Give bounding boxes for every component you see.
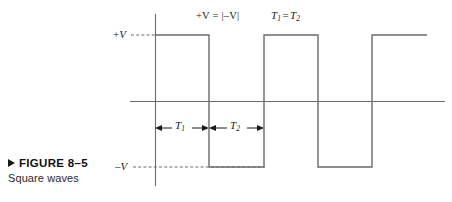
figure-square-waves: +V = |–V| T1=T2 +V –V T1 T2 FIGURE 8–5 S… bbox=[0, 0, 452, 202]
figure-caption-title-row: FIGURE 8–5 bbox=[8, 157, 128, 169]
figure-caption-subtitle: Square waves bbox=[8, 172, 128, 184]
t2-subscript: 2 bbox=[236, 124, 240, 133]
period-relation-t2-subscript: 2 bbox=[296, 14, 300, 23]
triangle-right-icon bbox=[8, 159, 15, 167]
annotation-amplitude-relation: +V = |–V| bbox=[196, 11, 239, 22]
positive-v-letter: V bbox=[119, 28, 126, 40]
axis-label-positive-v: +V bbox=[113, 29, 126, 40]
period-relation-equals: = bbox=[281, 9, 290, 21]
figure-caption-title: FIGURE 8–5 bbox=[19, 157, 88, 169]
t1-subscript: 1 bbox=[181, 124, 185, 133]
dimension-label-t1: T1 bbox=[175, 120, 185, 133]
figure-caption: FIGURE 8–5 Square waves bbox=[8, 157, 128, 184]
dimension-label-t2: T2 bbox=[230, 120, 240, 133]
annotation-period-relation: T1=T2 bbox=[271, 10, 300, 23]
